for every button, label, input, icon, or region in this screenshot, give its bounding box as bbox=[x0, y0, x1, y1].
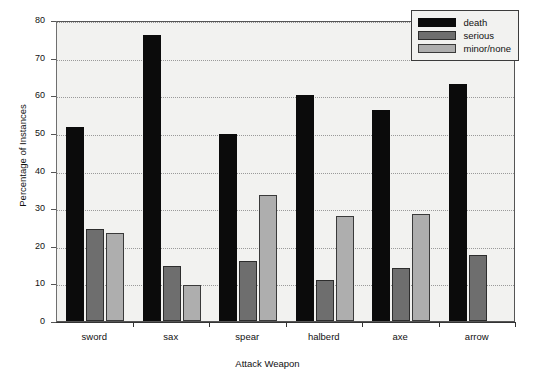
x-tick-label-spear: spear bbox=[235, 331, 259, 342]
x-tick-label-sword: sword bbox=[82, 331, 107, 342]
legend-label-death: death bbox=[463, 17, 487, 28]
y-tick-label-0: 0 bbox=[13, 316, 45, 326]
x-tick-label-axe: axe bbox=[393, 331, 408, 342]
y-tick-label-80: 80 bbox=[13, 15, 45, 25]
y-tick-label-10: 10 bbox=[13, 278, 45, 288]
x-axis-line bbox=[56, 322, 515, 323]
x-tick-label-halberd: halberd bbox=[308, 331, 340, 342]
legend-swatch-serious-icon bbox=[418, 31, 456, 40]
legend-item-death: death bbox=[418, 16, 511, 29]
legend-item-serious: serious bbox=[418, 29, 511, 42]
legend-label-serious: serious bbox=[463, 30, 494, 41]
y-axis-title: Percentage of Instances bbox=[17, 46, 28, 266]
legend-item-minor: minor/none bbox=[418, 42, 511, 55]
legend-label-minor: minor/none bbox=[463, 43, 511, 54]
legend-swatch-minor-icon bbox=[418, 44, 456, 53]
x-axis-title: Attack Weapon bbox=[0, 358, 535, 369]
x-tick-label-sax: sax bbox=[163, 331, 178, 342]
x-tick-label-arrow: arrow bbox=[465, 331, 489, 342]
chart-figure: 01020304050607080 swordsaxspearhalberdax… bbox=[0, 0, 535, 382]
legend: death serious minor/none bbox=[411, 10, 519, 61]
legend-swatch-death-icon bbox=[418, 18, 456, 27]
